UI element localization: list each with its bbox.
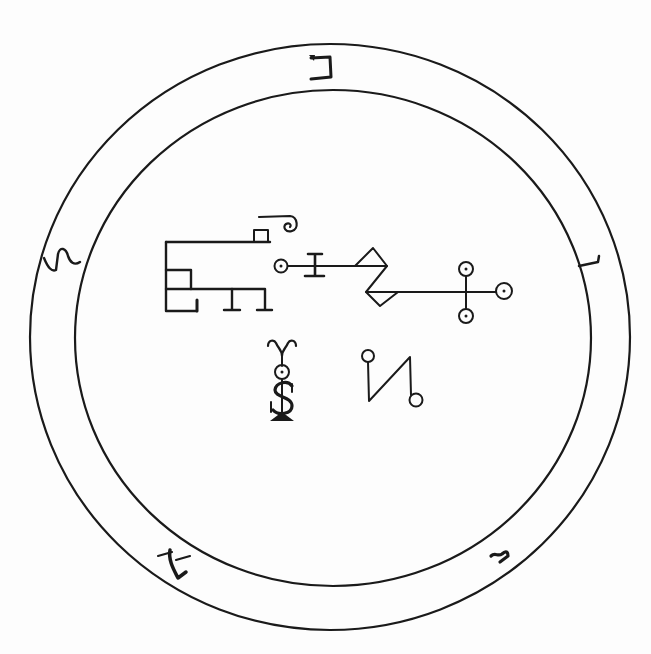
bracket-glyph-icon xyxy=(166,216,297,311)
seal-canvas xyxy=(0,0,651,654)
bottom-right-glyph-icon xyxy=(491,552,508,562)
outer-ring xyxy=(30,44,630,630)
horned-s-figure-icon xyxy=(268,341,296,421)
top-glyph-icon xyxy=(309,55,331,79)
left-glyph-icon xyxy=(44,249,80,271)
bottom-left-glyph-icon xyxy=(158,550,190,578)
n-circles-icon xyxy=(362,350,423,407)
inner-ring xyxy=(75,90,591,586)
circle-i-line-icon xyxy=(275,254,361,276)
cross-circles-icon xyxy=(398,262,512,323)
seal-drawing xyxy=(0,0,651,654)
right-glyph-icon xyxy=(579,256,599,266)
zigzag-triangles-icon xyxy=(355,248,398,306)
